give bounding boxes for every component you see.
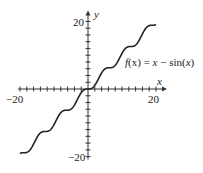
y-tick-label-max: 20 xyxy=(73,16,85,28)
x-axis-arrow-icon xyxy=(162,87,167,92)
y-axis-label: y xyxy=(93,8,99,20)
x-tick-label-max: 20 xyxy=(148,93,160,105)
y-axis-arrow-icon xyxy=(86,10,91,15)
y-tick-label-min: −20 xyxy=(68,151,86,163)
chart: −20 20 20 −20 x y f(x) = x − sin(x) xyxy=(0,0,203,173)
x-tick-label-min: −20 xyxy=(6,93,24,105)
axes xyxy=(18,10,167,159)
x-axis-label: x xyxy=(156,75,162,87)
function-label: f(x) = x − sin(x) xyxy=(125,56,195,69)
